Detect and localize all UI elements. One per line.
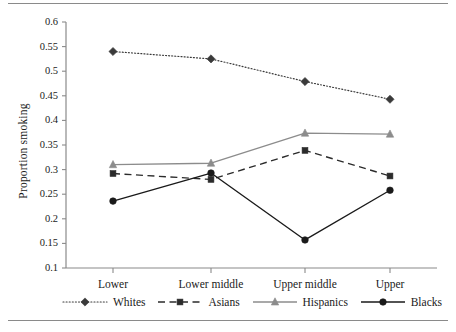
legend-swatch-diamond-icon [62,296,108,308]
data-point-circle [379,299,386,306]
legend-swatch-square-icon [157,296,203,308]
data-point-circle [208,170,215,177]
series-whites [109,47,394,103]
legend-item-whites[interactable]: Whites [62,296,146,308]
legend-label: Whites [113,296,146,308]
data-point-diamond [81,298,89,306]
legend-swatch-triangle-icon [252,296,298,308]
figure-container: Proportion smoking 0.10.150.20.250.30.35… [0,0,456,332]
data-series [109,47,394,243]
series-blacks [110,170,394,244]
legend-label: Blacks [411,296,442,308]
series-line [113,150,390,179]
series-line [113,133,390,164]
data-point-circle [387,187,394,194]
chart-legend: WhitesAsiansHispanicsBlacks [62,296,442,308]
data-point-square [177,299,183,305]
chart-plot-area: Proportion smoking 0.10.150.20.250.30.35… [0,0,456,332]
legend-swatch-circle-icon [360,296,406,308]
data-point-diamond [301,77,309,85]
legend-label: Asians [208,296,239,308]
data-point-diamond [207,55,215,63]
data-point-square [302,148,308,154]
data-point-square [387,173,393,179]
series-hispanics [109,129,393,168]
chart-svg [0,0,456,332]
legend-item-asians[interactable]: Asians [157,296,239,308]
legend-item-hispanics[interactable]: Hispanics [252,296,348,308]
axes [62,22,437,273]
series-line [113,52,390,100]
data-point-circle [302,237,309,244]
data-point-diamond [386,95,394,103]
series-line [113,173,390,240]
legend-label: Hispanics [303,296,348,308]
series-asians [110,148,393,183]
data-point-circle [110,198,117,205]
data-point-diamond [109,47,117,55]
data-point-square [208,177,214,183]
legend-item-blacks[interactable]: Blacks [360,296,442,308]
data-point-square [110,171,116,177]
